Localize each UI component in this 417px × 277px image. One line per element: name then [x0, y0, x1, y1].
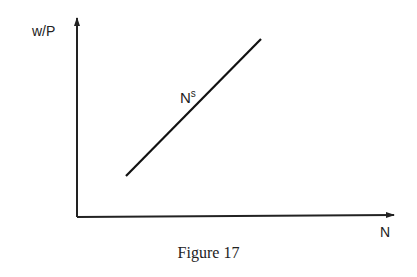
supply-curve-label: Ns — [180, 88, 196, 106]
figure-caption: Figure 17 — [0, 244, 417, 262]
supply-curve-label-superscript: s — [191, 88, 196, 99]
x-axis — [77, 215, 394, 217]
y-axis-label: w/P — [31, 23, 55, 39]
supply-curve — [126, 39, 261, 176]
labor-supply-diagram: w/P N Ns — [0, 0, 417, 277]
x-axis-label: N — [380, 224, 390, 240]
supply-curve-label-base: N — [180, 89, 191, 106]
